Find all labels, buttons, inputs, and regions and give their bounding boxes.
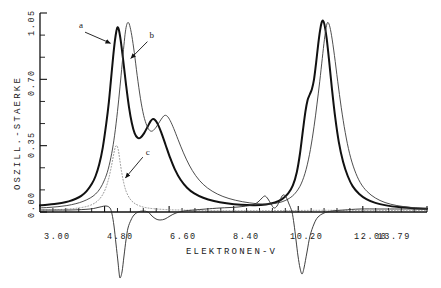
x-tick-label-4: 10.20 bbox=[290, 232, 324, 242]
x-tick-label-2: 6.60 bbox=[170, 232, 197, 242]
curve-label-c: c bbox=[146, 147, 150, 157]
y-tick-label-3: 1.05 bbox=[27, 9, 37, 36]
x-axis-title: ELEKTRONEN-V bbox=[186, 247, 277, 257]
curve-label-b: b bbox=[149, 30, 154, 40]
x-tick-label-1: 4.80 bbox=[107, 232, 134, 242]
y-tick-label-2: 0.70 bbox=[27, 69, 37, 96]
x-tick-label-6: 13.79 bbox=[377, 232, 411, 242]
curve-label-a: a bbox=[79, 20, 83, 30]
x-tick-label-3: 8.40 bbox=[233, 232, 260, 242]
chart-figure: 3.00 4.80 6.60 8.40 10.20 12.00 13.79 0.… bbox=[0, 0, 441, 288]
x-tick-label-0: 3.00 bbox=[44, 232, 71, 242]
y-axis-title: OSZILL.-STAERKE bbox=[13, 76, 23, 190]
y-tick-label-0: 0.00 bbox=[27, 191, 37, 218]
y-tick-label-1: 0.35 bbox=[27, 131, 37, 158]
figure-background bbox=[0, 0, 441, 288]
spectrum-plot: 3.00 4.80 6.60 8.40 10.20 12.00 13.79 0.… bbox=[0, 0, 441, 288]
